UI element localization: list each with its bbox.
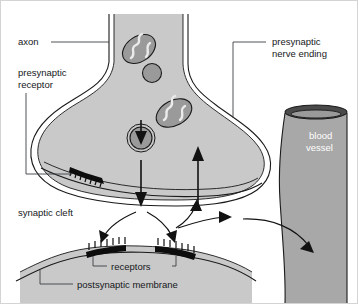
vesicle-body — [143, 64, 162, 83]
blood-vessel: blood vessel — [279, 105, 347, 303]
presynaptic-receptor-label-line2: receptor — [18, 79, 53, 90]
presynaptic-nerve-ending — [31, 14, 271, 206]
diffusion-arrow-right — [147, 212, 172, 236]
synaptic-cleft-label: synaptic cleft — [18, 207, 73, 218]
presynaptic-nerve-ending-leader-line — [233, 42, 266, 118]
blood-vessel-lumen-inner — [291, 110, 341, 118]
postsynaptic-membrane-label: postsynaptic membrane — [77, 279, 178, 290]
diagram-canvas: blood vessel — [0, 0, 358, 304]
clearance-arrowhead-right — [219, 211, 232, 223]
clearance-arrow-right — [178, 217, 224, 228]
receptors-label: receptors — [111, 261, 151, 272]
diffusion-arrowhead-right — [166, 230, 177, 243]
synapse-diagram-figure: blood vessel — [0, 0, 358, 304]
axon-label: axon — [18, 36, 39, 47]
postsynaptic-cytoplasm — [20, 246, 252, 303]
blood-vessel-label-line1: blood — [309, 130, 332, 141]
presynaptic-nerve-ending-label-line1: presynaptic — [272, 36, 321, 47]
presynaptic-receptor-label-line1: presynaptic — [18, 67, 67, 78]
diffusion-arrow-left — [104, 212, 136, 236]
blood-vessel-label-line2: vessel — [306, 142, 333, 153]
presynaptic-nerve-ending-label-line2: nerve ending — [272, 48, 327, 59]
vesicle-upper — [143, 64, 162, 83]
